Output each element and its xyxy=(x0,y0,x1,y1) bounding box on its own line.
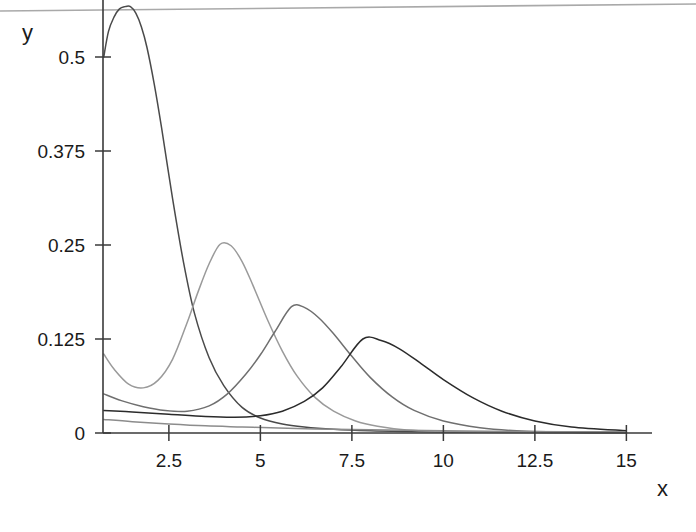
curves-group xyxy=(104,6,627,433)
x-tick-label: 15 xyxy=(616,451,637,470)
y-tick-label: 0.25 xyxy=(0,236,85,255)
axes-group xyxy=(95,0,652,441)
chart-curve xyxy=(104,419,627,431)
x-tick-label: 2.5 xyxy=(156,451,182,470)
y-tick-label: 0 xyxy=(0,424,85,443)
x-axis-label: x xyxy=(657,478,668,500)
chart-curve xyxy=(104,337,627,431)
chart-curve xyxy=(104,6,627,433)
chart-curve xyxy=(104,305,627,433)
x-tick-label: 10 xyxy=(433,451,454,470)
chart-root: 00.1250.250.3750.52.557.51012.515 y x xyxy=(0,0,696,532)
y-axis-label: y xyxy=(22,22,33,44)
y-tick-label: 0.5 xyxy=(0,48,85,67)
y-tick-label: 0.125 xyxy=(0,330,85,349)
y-tick-label: 0.375 xyxy=(0,142,85,161)
x-tick-label: 12.5 xyxy=(516,451,553,470)
x-tick-label: 7.5 xyxy=(339,451,365,470)
x-tick-label: 5 xyxy=(255,451,266,470)
